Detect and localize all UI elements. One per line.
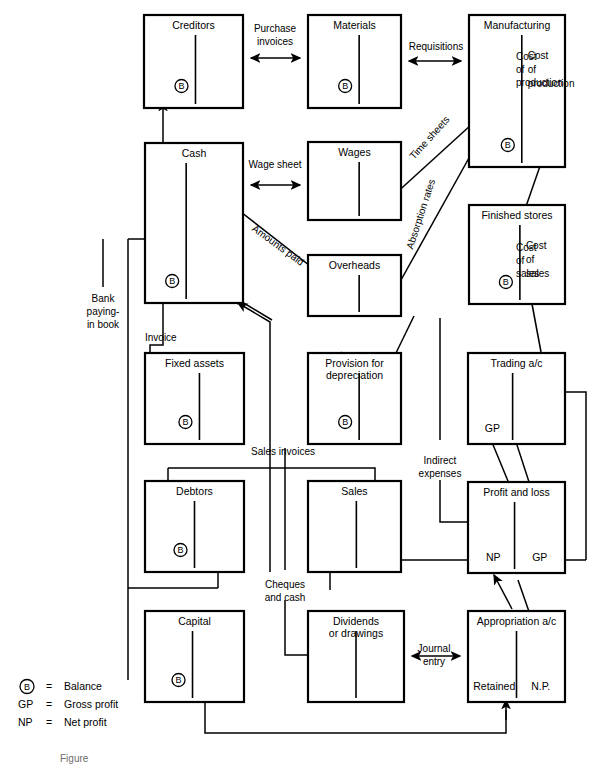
account-title: Overheads bbox=[329, 259, 380, 271]
flow-label-line: Cheques bbox=[265, 579, 305, 590]
account-box-sales[interactable]: Sales bbox=[308, 481, 401, 572]
account-boxes: CreditorsBMaterialsBManufacturingBCostof… bbox=[144, 15, 575, 702]
balance-marker-label: B bbox=[182, 417, 188, 427]
flow-label-amounts-paid: Amounts paid bbox=[250, 223, 306, 268]
account-title: Cash bbox=[182, 147, 207, 159]
account-title: Manufacturing bbox=[484, 19, 551, 31]
account-box-trading-ac[interactable]: Trading a/cGP bbox=[468, 353, 565, 444]
flow-label-requisitions: Requisitions bbox=[409, 41, 463, 52]
flow-label-sales-invoices: Sales invoices bbox=[251, 446, 315, 457]
balance-marker-label: B bbox=[505, 140, 511, 150]
flow-label-line: Sales invoices bbox=[251, 446, 315, 457]
figure-key: B=BalanceGP=Gross profitNP=Net profit bbox=[18, 680, 118, 729]
account-title: Creditors bbox=[172, 19, 215, 31]
flow-label-line: Time sheets bbox=[407, 114, 451, 162]
account-title: Sales bbox=[341, 485, 367, 497]
account-box-frame bbox=[145, 143, 243, 303]
flow-label-line: Journal bbox=[418, 643, 451, 654]
account-title-line: Dividends bbox=[333, 615, 379, 627]
account-bottom-left-label: Retained bbox=[473, 680, 515, 692]
account-box-debtors[interactable]: DebtorsB bbox=[145, 481, 244, 572]
key-meaning: Balance bbox=[64, 680, 102, 692]
account-box-frame bbox=[469, 15, 565, 167]
flow-label-line: paying- bbox=[87, 306, 120, 317]
flow-label-line: Amounts paid bbox=[250, 223, 306, 268]
key-equals: = bbox=[46, 680, 52, 692]
balance-marker-label: B bbox=[169, 276, 175, 286]
account-box-profit-and-loss[interactable]: Profit and lossNPGP bbox=[468, 482, 565, 573]
flow-label-cheques-and-cash: Chequesand cash bbox=[265, 579, 306, 603]
flow-label-invoice: Invoice bbox=[145, 332, 177, 343]
account-box-overheads[interactable]: Overheads bbox=[308, 255, 401, 316]
balance-marker-label: B bbox=[342, 81, 348, 91]
account-box-dividends-or-drawings[interactable]: Dividendsor drawings bbox=[308, 611, 404, 702]
flow-label-line: Invoice bbox=[145, 332, 177, 343]
balance-marker-label: B bbox=[342, 417, 348, 427]
account-box-capital[interactable]: CapitalB bbox=[145, 611, 244, 702]
flow-label-indirect-expenses: Indirectexpenses bbox=[419, 455, 462, 479]
flow-label-bank-paying-in-book: Bankpaying-in book bbox=[87, 293, 121, 330]
account-title-line: Provision for bbox=[325, 357, 384, 369]
flow-label-line: of bbox=[516, 255, 525, 266]
flow-label-line: Requisitions bbox=[409, 41, 463, 52]
flow-label-line: in book bbox=[87, 319, 120, 330]
account-title: Trading a/c bbox=[490, 357, 542, 369]
flow-label-time-sheets: Time sheets bbox=[407, 114, 451, 162]
account-bottom-right-label: GP bbox=[532, 551, 547, 563]
account-title: Wages bbox=[338, 146, 370, 158]
flow-label-line: Cost bbox=[516, 51, 537, 62]
flow-label-journal-entry: Journalentry bbox=[418, 643, 451, 667]
flow-label-line: and cash bbox=[265, 592, 306, 603]
account-box-appropriation-ac[interactable]: Appropriation a/cRetainedN.P. bbox=[468, 611, 565, 702]
balance-marker-label: B bbox=[176, 675, 182, 685]
flow-label-line: Purchase bbox=[254, 23, 297, 34]
flow-label-line: Wage sheet bbox=[249, 159, 302, 170]
account-title: Appropriation a/c bbox=[477, 615, 556, 627]
account-box-creditors[interactable]: CreditorsB bbox=[144, 15, 243, 108]
flow-label-line: of bbox=[516, 64, 525, 75]
flow-label-line: entry bbox=[423, 656, 445, 667]
account-sub-label: of bbox=[526, 254, 535, 265]
flow-label-line: expenses bbox=[419, 468, 462, 479]
account-box-materials[interactable]: MaterialsB bbox=[308, 15, 401, 108]
figure-caption: Figure bbox=[60, 753, 89, 764]
account-box-manufacturing[interactable]: ManufacturingBCostofproduction bbox=[469, 15, 575, 167]
key-meaning: Gross profit bbox=[64, 698, 118, 710]
account-box-wages[interactable]: Wages bbox=[308, 142, 401, 220]
account-box-fixed-assets[interactable]: Fixed assetsB bbox=[145, 353, 244, 444]
key-symbol: NP bbox=[18, 716, 33, 728]
flow-label-line: Bank bbox=[92, 293, 116, 304]
flow-label-absorption-rates: Absorption rates bbox=[404, 178, 437, 251]
flow-label-wage-sheet: Wage sheet bbox=[249, 159, 302, 170]
key-symbol: GP bbox=[18, 698, 33, 710]
account-title-line: or drawings bbox=[329, 627, 383, 639]
account-title: Fixed assets bbox=[165, 357, 224, 369]
flow-label-line: Cost bbox=[516, 242, 537, 253]
account-title: Capital bbox=[178, 615, 211, 627]
key-symbol: B bbox=[24, 682, 30, 692]
flow-label-purchase-invoices: Purchaseinvoices bbox=[254, 23, 297, 47]
account-title-line: depreciation bbox=[326, 369, 383, 381]
account-box-cash[interactable]: CashB bbox=[145, 143, 243, 303]
balance-marker-label: B bbox=[503, 277, 509, 287]
account-bottom-right-label: N.P. bbox=[531, 680, 550, 692]
balance-marker-label: B bbox=[178, 81, 184, 91]
account-bottom-left-label: GP bbox=[485, 422, 500, 434]
balance-marker-label: B bbox=[177, 545, 183, 555]
accounting-flow-diagram: CreditorsBMaterialsBManufacturingBCostof… bbox=[0, 0, 598, 772]
account-title: Materials bbox=[333, 19, 376, 31]
figure-canvas: CreditorsBMaterialsBManufacturingBCostof… bbox=[0, 0, 598, 772]
key-equals: = bbox=[46, 716, 52, 728]
flow-label-line: invoices bbox=[257, 36, 293, 47]
flow-label-line: production bbox=[516, 77, 563, 88]
account-sub-label: of bbox=[528, 64, 537, 75]
account-box-provision-depreciation[interactable]: Provision fordepreciationB bbox=[308, 353, 401, 444]
account-bottom-left-label: NP bbox=[486, 551, 501, 563]
account-title: Profit and loss bbox=[483, 486, 550, 498]
flow-label-line: sales bbox=[516, 268, 539, 279]
flow-label-line: Absorption rates bbox=[404, 178, 437, 251]
key-equals: = bbox=[46, 698, 52, 710]
account-title: Debtors bbox=[176, 485, 213, 497]
connector-np-appropriation-to-pl bbox=[494, 575, 512, 609]
account-title: Finished stores bbox=[481, 209, 552, 221]
